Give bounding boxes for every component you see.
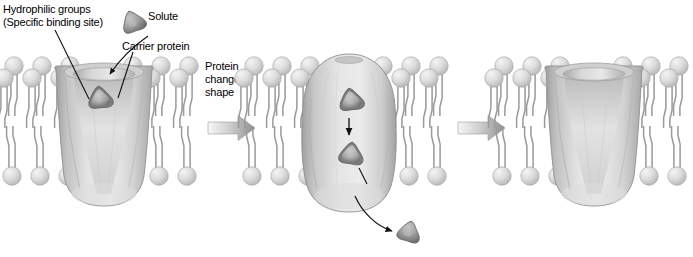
diagram-canvas: Hydrophilic groups (Specific binding sit… [0,0,693,257]
diagram-graphics [0,0,693,257]
panel-2-protein-changed-shape [235,54,448,244]
carrier-protein-panel2 [302,54,396,212]
carrier-protein-panel3 [545,63,644,206]
panel-1-solute-bound-outside [0,57,198,206]
solute-released-panel2 [396,218,423,244]
carrier-protein-panel1 [55,63,154,206]
transition-arrow-1-2 [208,116,255,141]
panel-3-protein-reset-empty [485,57,688,206]
transition-arrow-2-3 [458,116,505,141]
solute-glyph-legend [118,7,148,36]
